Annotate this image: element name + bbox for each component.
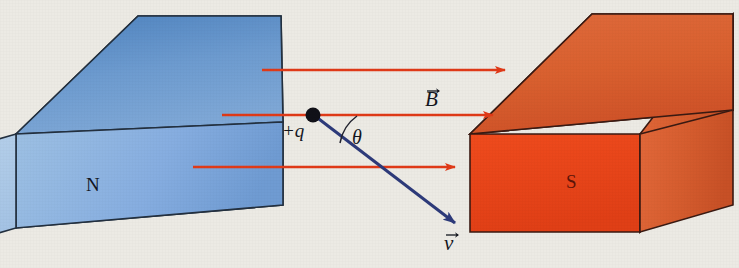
v-vector-overbar-icon [445,231,460,240]
south-magnet [470,14,733,232]
north-magnet [0,16,283,250]
b-vector-overbar-icon [426,87,441,96]
figure-scene [0,0,739,268]
north-magnet-bottom-left-face [16,122,283,228]
magnetic-field-vector-label: B [425,89,438,110]
south-magnet-front-face [470,134,640,232]
velocity-vector-arrow [315,116,455,223]
charge-dot [306,108,321,123]
north-magnet-left-face [16,16,283,134]
magnetic-field-figure: N S +q θ B v [0,0,739,268]
charge-label: +q [282,121,304,140]
angle-label: θ [352,127,362,147]
north-pole-label: N [86,175,100,194]
north-magnet-front-square [0,134,16,250]
velocity-vector-label: v [444,233,453,254]
south-pole-label: S [566,172,577,191]
